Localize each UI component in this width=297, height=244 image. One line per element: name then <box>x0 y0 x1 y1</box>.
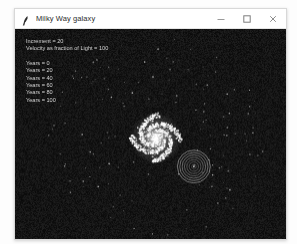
galaxy-canvas[interactable] <box>15 29 286 239</box>
screen-root: Milky Way galaxy <box>0 0 297 244</box>
window-title: Milky Way galaxy <box>36 14 208 23</box>
galaxy-canvas-container[interactable]: Increment = 20 Velocity as fraction of L… <box>15 29 286 239</box>
feather-icon <box>20 13 32 25</box>
close-icon <box>268 14 278 24</box>
app-window: Milky Way galaxy <box>14 8 287 240</box>
maximize-button[interactable] <box>234 9 260 28</box>
minimize-button[interactable] <box>208 9 234 28</box>
minimize-icon <box>216 14 226 24</box>
close-button[interactable] <box>260 9 286 28</box>
window-titlebar[interactable]: Milky Way galaxy <box>15 9 286 29</box>
maximize-icon <box>242 14 252 24</box>
window-controls <box>208 9 286 28</box>
